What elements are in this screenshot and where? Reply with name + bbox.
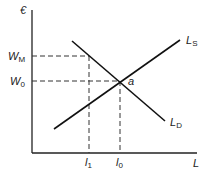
w0-label: W0	[10, 75, 25, 89]
supply-curve	[54, 40, 180, 129]
l0-label: l0	[116, 156, 123, 170]
y-axis-label: €	[20, 4, 27, 16]
x-axis-label: L	[193, 157, 199, 169]
demand-label: LD	[170, 116, 182, 130]
demand-curve	[72, 41, 165, 121]
equilibrium-label: a	[128, 75, 134, 87]
l1-label: l1	[85, 156, 92, 170]
supply-label: LS	[186, 34, 197, 48]
wm-label: WM	[8, 50, 25, 64]
labour-market-diagram: € L WM W0 l1 l0 LS LD a	[0, 0, 211, 177]
